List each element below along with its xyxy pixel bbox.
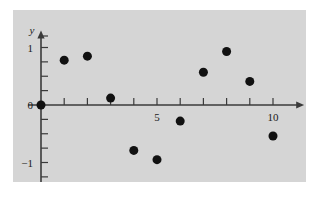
y-axis-name-label: y xyxy=(29,24,35,36)
x-tick-label: 5 xyxy=(154,111,160,123)
data-point xyxy=(245,77,254,86)
y-tick-label: −1 xyxy=(21,157,33,169)
data-point xyxy=(199,68,208,77)
axis-label-group: 51010−1xy xyxy=(21,24,306,168)
data-point xyxy=(176,117,185,126)
data-point xyxy=(222,47,231,56)
y-tick-label: 0 xyxy=(28,99,34,111)
y-tick-label: 1 xyxy=(28,42,34,54)
y-axis-arrow-icon xyxy=(37,30,44,38)
x-axis-arrow-icon xyxy=(296,101,304,108)
scatter-plot: 51010−1xy xyxy=(13,10,306,182)
data-point xyxy=(106,94,115,103)
data-point xyxy=(60,56,69,65)
data-point xyxy=(37,101,46,110)
data-point xyxy=(269,132,278,141)
data-point xyxy=(129,146,138,155)
data-point xyxy=(153,155,162,164)
figure-container: 51010−1xy xyxy=(0,0,323,198)
axis-group xyxy=(28,30,304,182)
x-tick-label: 10 xyxy=(268,111,280,123)
plot-panel: 51010−1xy xyxy=(13,10,306,182)
data-point xyxy=(83,52,92,61)
